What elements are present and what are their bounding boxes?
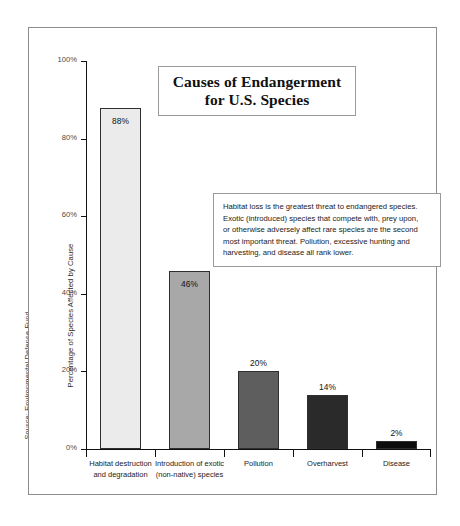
bar-value-label: 46% (170, 279, 209, 289)
x-tick (155, 450, 156, 457)
x-label-line: and degradation (83, 470, 158, 481)
note-box: Habitat loss is the greatest threat to e… (213, 193, 441, 267)
x-tick (224, 450, 225, 457)
x-tick (430, 450, 431, 457)
x-label-line: Overharvest (292, 459, 363, 470)
x-label-pollution: Pollution (223, 459, 294, 470)
bar-value-label: 14% (308, 382, 347, 392)
x-label-habitat-destruction: Habitat destruction and degradation (83, 459, 158, 480)
bar-value-label: 2% (377, 428, 416, 438)
y-tick-label: 100% (58, 55, 77, 64)
bar-habitat-destruction[interactable]: 88% (100, 108, 141, 449)
x-label-line: Introduction of exotic (150, 459, 229, 470)
y-axis-title: Percentage of Species Affected by Cause (66, 196, 75, 436)
bar-value-label: 20% (239, 358, 278, 368)
x-label-line: (non-native) species (150, 470, 229, 481)
x-label-line: Disease (361, 459, 432, 470)
x-label-line: Habitat destruction (83, 459, 158, 470)
x-label-line: Pollution (223, 459, 294, 470)
x-tick (362, 450, 363, 457)
note-text: Habitat loss is the greatest threat to e… (223, 201, 432, 259)
chart-title-box: Causes of Endangerment for U.S. Species (158, 66, 356, 116)
bar-value-label: 88% (101, 116, 140, 126)
y-tick-label: 80% (62, 133, 77, 142)
x-axis-line (86, 449, 431, 450)
x-label-disease: Disease (361, 459, 432, 470)
bar-exotic-species[interactable]: 46% (169, 271, 210, 450)
x-label-overharvest: Overharvest (292, 459, 363, 470)
scan-artifact-text (60, 0, 320, 6)
bar-pollution[interactable]: 20% (238, 371, 279, 449)
x-tick (86, 450, 87, 457)
chart-title: Causes of Endangerment for U.S. Species (173, 73, 341, 109)
x-label-exotic-species: Introduction of exotic (non-native) spec… (150, 459, 229, 480)
bar-overharvest[interactable]: 14% (307, 395, 348, 449)
bar-disease[interactable]: 2% (376, 441, 417, 449)
y-tick-label: 0% (66, 443, 77, 452)
x-tick (293, 450, 294, 457)
y-axis-line (86, 61, 87, 449)
figure-frame: 0% 20% 40% 60% 80% 100% (28, 27, 437, 495)
